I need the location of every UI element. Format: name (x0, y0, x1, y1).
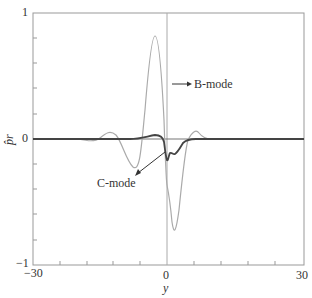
x-tick-neg30: −30 (24, 266, 43, 281)
y-tick-0: 0 (22, 131, 28, 146)
y-tick-1: 1 (22, 5, 28, 20)
b-mode-curve (33, 36, 304, 230)
b-mode-label: B-mode (194, 77, 233, 92)
c-mode-arrowhead (135, 169, 141, 176)
y-axis-label: p̂r (2, 134, 17, 145)
c-mode-label: C-mode (97, 176, 136, 191)
x-tick-30: 30 (296, 268, 308, 283)
b-mode-arrowhead (187, 82, 192, 87)
c-mode-arrow (138, 152, 165, 173)
chart-canvas (0, 0, 312, 298)
x-axis-label: y (163, 281, 168, 296)
